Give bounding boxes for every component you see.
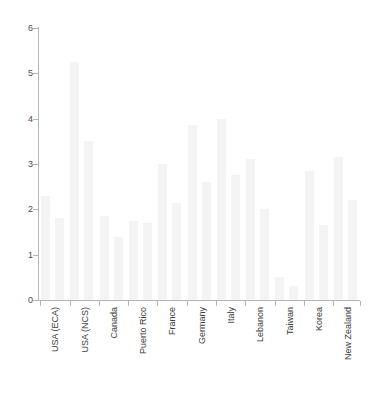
bar[interactable] (100, 216, 109, 300)
x-axis-tick-mark (275, 301, 276, 306)
plot-area: 0123456 (38, 28, 360, 300)
bar[interactable] (275, 277, 284, 300)
bar[interactable] (129, 221, 138, 300)
bar[interactable] (319, 225, 328, 300)
bar[interactable] (188, 125, 197, 300)
y-axis-tick-label: 4 (28, 114, 33, 123)
x-axis-end-tick-mark (360, 301, 361, 306)
x-axis-tick-mark (40, 301, 41, 306)
y-axis-tick-label: 3 (28, 160, 33, 169)
bar[interactable] (217, 119, 226, 300)
bar[interactable] (84, 141, 93, 300)
y-axis-tick-label: 0 (28, 296, 33, 305)
bar[interactable] (55, 218, 64, 300)
y-axis-tick-label: 5 (28, 69, 33, 78)
y-axis-tick-mark (33, 209, 38, 210)
bar[interactable] (143, 223, 152, 300)
x-axis-tick-label: Lebanon (256, 307, 265, 342)
x-axis-tick-label: New Zealand (344, 307, 353, 360)
x-axis-tick-label: USA (ECA) (51, 307, 60, 352)
bar[interactable] (158, 164, 167, 300)
bar[interactable] (289, 286, 298, 300)
bar[interactable] (114, 237, 123, 300)
x-axis-tick-label: Korea (315, 307, 324, 331)
x-axis-tick-mark (99, 301, 100, 306)
x-axis-tick-label: France (168, 307, 177, 335)
bar[interactable] (231, 175, 240, 300)
bar[interactable] (172, 203, 181, 300)
y-axis-tick-label: 6 (28, 24, 33, 33)
x-axis-tick-mark (128, 301, 129, 306)
x-axis-tick-label: Taiwan (286, 307, 295, 335)
bar[interactable] (305, 171, 314, 300)
y-axis-tick-mark (33, 164, 38, 165)
y-axis-tick-mark (33, 300, 38, 301)
bar-chart: 0123456 USA (ECA)USA (NCS)CanadaPuerto R… (0, 0, 374, 400)
x-axis-tick-mark (216, 301, 217, 306)
bar[interactable] (246, 159, 255, 300)
y-axis-tick-label: 1 (28, 250, 33, 259)
bar[interactable] (334, 157, 343, 300)
x-axis-tick-mark (245, 301, 246, 306)
x-axis-tick-label: USA (NCS) (81, 307, 90, 353)
x-axis-tick-label: Canada (110, 307, 119, 339)
x-axis-tick-label: Puerto Rico (139, 307, 148, 354)
x-axis-spine (38, 300, 360, 301)
x-axis-tick-mark (157, 301, 158, 306)
y-axis-tick-mark (33, 255, 38, 256)
x-axis-tick-mark (304, 301, 305, 306)
bar[interactable] (348, 200, 357, 300)
x-axis-tick-mark (333, 301, 334, 306)
bar[interactable] (41, 196, 50, 300)
x-axis-tick-mark (187, 301, 188, 306)
y-axis-tick-mark (33, 73, 38, 74)
bar[interactable] (260, 209, 269, 300)
x-axis-tick-mark (70, 301, 71, 306)
x-axis-tick-label: Italy (227, 307, 236, 324)
x-axis-tick-label: Germany (198, 307, 207, 344)
y-axis-tick-label: 2 (28, 205, 33, 214)
bar[interactable] (202, 182, 211, 300)
y-axis-tick-mark (33, 119, 38, 120)
bar[interactable] (70, 62, 79, 300)
y-axis-tick-mark (33, 28, 38, 29)
